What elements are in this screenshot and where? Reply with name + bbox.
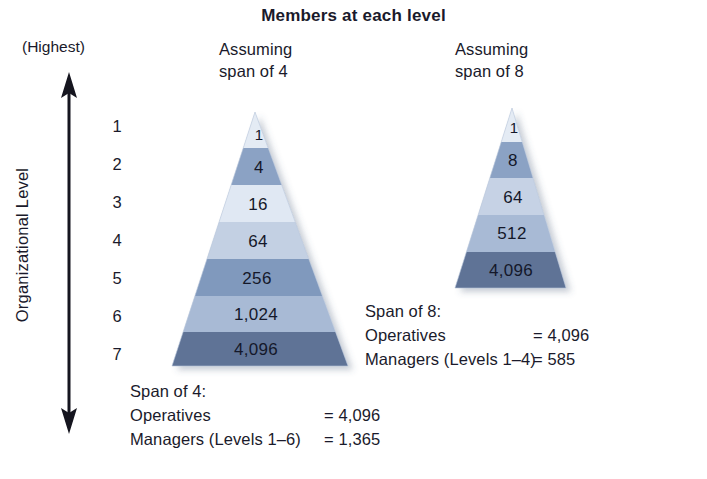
page-title: Members at each level (0, 6, 707, 26)
pyramid-band-value: 64 (248, 232, 268, 252)
span-of-4-pyramid: 1 4 16 64 256 1,024 4,096 (160, 104, 360, 382)
pyramid-band-value: 16 (248, 195, 268, 215)
level-number: 7 (104, 335, 130, 373)
level-number: 1 (104, 107, 130, 145)
pyramid-band-value: 64 (503, 188, 523, 208)
level-number: 6 (104, 297, 130, 335)
summary-row-value: = 4,096 (324, 403, 380, 427)
summary-row-label: Managers (Levels 1–4) (365, 347, 536, 371)
summary-span-4: Span of 4: Operatives = 4,096 Managers (… (130, 379, 470, 451)
summary-row-value: = 4,096 (533, 323, 589, 347)
summary-title: Span of 4: (130, 379, 470, 403)
summary-title-text: Span of 4: (130, 379, 206, 403)
pyramid-band-value: 1,024 (234, 305, 278, 325)
axis-label-container: Organizational Level (2, 140, 42, 350)
pyramid-band-value: 4,096 (489, 261, 533, 281)
level-number-list: 1 2 3 4 5 6 7 (104, 107, 130, 373)
level-number: 5 (104, 259, 130, 297)
summary-row-label: Operatives (365, 323, 446, 347)
pyramid-band-value: 8 (508, 151, 518, 171)
summary-row-label: Operatives (130, 403, 211, 427)
axis-highest-label: (Highest) (22, 38, 85, 56)
summary-row: Managers (Levels 1–4) = 585 (365, 347, 685, 371)
summary-row-value: = 1,365 (324, 427, 380, 451)
level-number: 3 (104, 183, 130, 221)
pyramid-band-value: 256 (242, 269, 271, 289)
pyramid-band-value: 4,096 (234, 340, 278, 360)
summary-title: Span of 8: (365, 299, 685, 323)
summary-row: Operatives = 4,096 (130, 403, 470, 427)
summary-row: Operatives = 4,096 (365, 323, 685, 347)
column-header-span-8: Assuming span of 8 (455, 38, 528, 82)
pyramid-band-value: 1 (510, 119, 519, 136)
level-number: 2 (104, 145, 130, 183)
span-of-8-pyramid: 1 8 64 512 4,096 (445, 100, 585, 300)
pyramid-band-value: 4 (254, 158, 264, 178)
summary-row: Managers (Levels 1–6) = 1,365 (130, 427, 470, 451)
level-number: 4 (104, 221, 130, 259)
pyramid-band-value: 512 (497, 224, 526, 244)
summary-span-8: Span of 8: Operatives = 4,096 Managers (… (365, 299, 685, 371)
axis-title-organizational-level: Organizational Level (13, 168, 32, 322)
column-header-span-4: Assuming span of 4 (219, 38, 292, 82)
figure-canvas: Members at each level Assuming span of 4… (0, 0, 707, 479)
summary-row-value: = 585 (533, 347, 575, 371)
summary-title-text: Span of 8: (365, 299, 441, 323)
pyramid-band-value: 1 (255, 126, 264, 143)
double-arrow-icon (58, 72, 80, 434)
summary-row-label: Managers (Levels 1–6) (130, 427, 301, 451)
